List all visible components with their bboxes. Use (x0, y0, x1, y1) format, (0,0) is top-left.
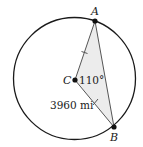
angle-label: 110° (79, 74, 104, 86)
point-a-dot (92, 18, 97, 23)
circle-diagram: A B C 110° 3960 mi (0, 0, 143, 147)
radius-label: 3960 mi (50, 99, 94, 111)
point-b-dot (111, 124, 116, 129)
label-b: B (109, 131, 118, 144)
label-a: A (90, 5, 99, 18)
label-c: C (63, 74, 72, 87)
point-c-dot (72, 77, 77, 82)
